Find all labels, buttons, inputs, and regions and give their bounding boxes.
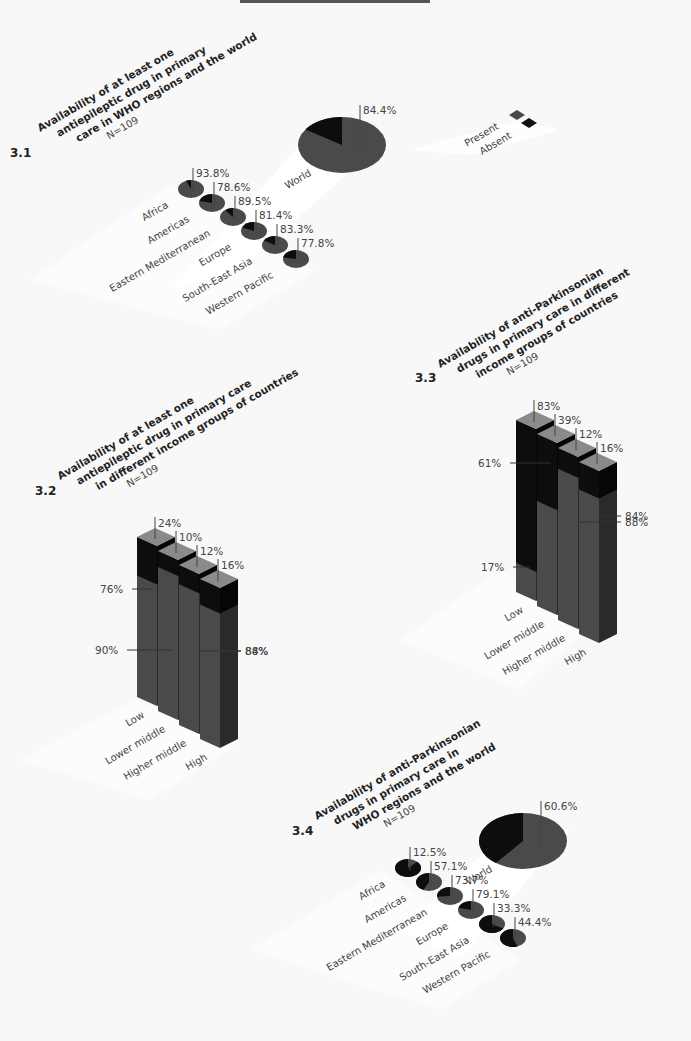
pie-value-label: 44.4% <box>518 916 551 928</box>
pie-value-label: 79.1% <box>476 888 509 900</box>
bar-absent-left-face <box>537 434 557 510</box>
pie-absent-slice <box>283 250 296 259</box>
absent-value-label: 83% <box>537 400 560 412</box>
pie-absent-slice <box>437 887 450 897</box>
pie-value-label: 93.8% <box>196 167 229 179</box>
pie-value-label: 57.1% <box>434 860 467 872</box>
title-line: antiepileptic drug in primary care <box>74 377 253 487</box>
pie-value-label: 73.7% <box>455 874 488 886</box>
figure-3-3: 3.3 Availability of anti-Parkinsonian dr… <box>400 253 648 690</box>
figure-number: 3.3 <box>415 371 436 385</box>
pie-value-label: 12.5% <box>413 846 446 858</box>
pie-value-label: 89.5% <box>238 195 271 207</box>
present-value-label: 90% <box>95 644 118 656</box>
figure-title: Availability of anti-Parkinsonian drugs … <box>435 253 645 405</box>
figure-title: Availability of at least one antiepilept… <box>35 6 265 169</box>
pie-value-label: 60.6% <box>544 800 577 812</box>
figure-number: 3.2 <box>35 484 56 498</box>
title-line: drugs in primary care in different <box>454 266 631 375</box>
figure-3-2: 3.2 Availability of at least one antiepi… <box>20 341 307 800</box>
pie-value-label: 81.4% <box>259 209 292 221</box>
pie-value-label: 78.6% <box>217 181 250 193</box>
pie-value-label: 33.3% <box>497 902 530 914</box>
pie-value-label: 83.3% <box>280 223 313 235</box>
legend-swatch-present <box>509 110 525 120</box>
figure-title: Availability of at least one antiepilept… <box>55 341 307 517</box>
absent-value-label: 16% <box>221 559 244 571</box>
bar-absent-left-face <box>516 420 536 572</box>
absent-value-label: 16% <box>600 442 623 454</box>
pie-value-label: 84.4% <box>363 104 396 116</box>
figure-3-1: 3.1 Availability of at least one antiepi… <box>10 6 560 330</box>
absent-value-label: 10% <box>179 531 202 543</box>
absent-value-label: 24% <box>158 517 181 529</box>
present-value-label: 76% <box>100 583 123 595</box>
absent-value-label: 39% <box>558 414 581 426</box>
absent-value-label: 12% <box>200 545 223 557</box>
pie-value-label: 77.8% <box>301 237 334 249</box>
present-value-label: 61% <box>478 457 501 469</box>
present-value-label: 17% <box>481 561 504 573</box>
bar-present-left-face <box>158 551 178 720</box>
title-line: in different income groups of countries <box>93 366 300 492</box>
present-value-label: 88% <box>245 645 268 657</box>
figure-title: Availability of anti-Parkinsonian drugs … <box>312 716 504 857</box>
category-label: High <box>563 646 588 667</box>
present-value-label: 88% <box>625 516 648 528</box>
infographic-canvas: 3.1 Availability of at least one antiepi… <box>0 0 691 1041</box>
figure-3-4: 3.4 Availability of anti-Parkinsonian dr… <box>250 716 577 1010</box>
figure-number: 3.1 <box>10 146 31 160</box>
figure-number: 3.4 <box>292 824 313 838</box>
absent-value-label: 12% <box>579 428 602 440</box>
